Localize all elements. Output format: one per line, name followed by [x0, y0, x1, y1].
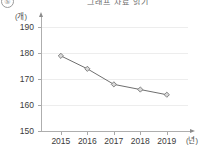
data-point-marker — [58, 53, 63, 58]
series-line — [61, 56, 167, 95]
data-series-line — [0, 0, 211, 157]
data-point-marker — [111, 82, 116, 87]
data-point-marker — [138, 87, 143, 92]
data-point-marker — [85, 66, 90, 71]
chart-figure: ⑤ 그래프 자료 읽기 (개) (년) 150160170180190 2015… — [0, 0, 211, 157]
data-point-marker — [164, 92, 169, 97]
